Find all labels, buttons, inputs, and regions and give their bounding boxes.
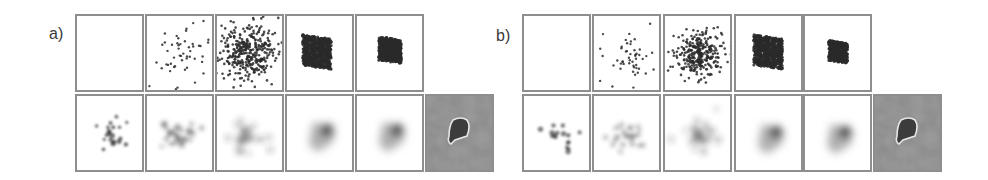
image-panel-dots bbox=[285, 14, 354, 92]
image-panel-empty bbox=[522, 14, 591, 92]
image-panel-empty bbox=[75, 14, 144, 92]
image-panel-blobs bbox=[663, 94, 732, 172]
image-panel-glow bbox=[803, 94, 872, 172]
image-panel-dots bbox=[734, 14, 803, 92]
image-panel-dots bbox=[663, 14, 732, 92]
image-panel-dots bbox=[592, 14, 661, 92]
panel-group-label: a) bbox=[49, 26, 63, 42]
image-panel-glow bbox=[355, 94, 424, 172]
image-panel-segmentation bbox=[425, 94, 494, 172]
image-panel-segmentation bbox=[873, 94, 942, 172]
image-panel-glow bbox=[734, 94, 803, 172]
image-panel-dots bbox=[355, 14, 424, 92]
image-panel-blobs bbox=[522, 94, 591, 172]
image-panel-dots bbox=[215, 14, 284, 92]
image-panel-blobs bbox=[215, 94, 284, 172]
image-panel-blobs bbox=[145, 94, 214, 172]
image-panel-glow bbox=[285, 94, 354, 172]
image-panel-blobs bbox=[592, 94, 661, 172]
image-panel-blobs bbox=[75, 94, 144, 172]
panel-group-label: b) bbox=[496, 28, 510, 44]
image-panel-dots bbox=[803, 14, 872, 92]
image-panel-dots bbox=[145, 14, 214, 92]
